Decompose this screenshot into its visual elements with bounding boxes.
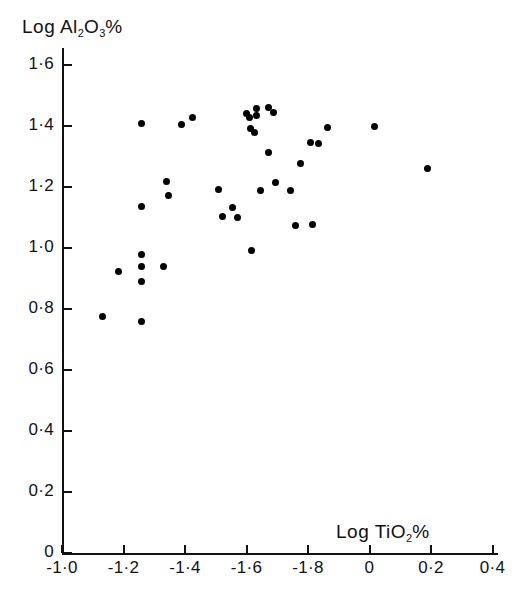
- data-point: [138, 278, 145, 285]
- data-point: [246, 114, 253, 121]
- plot-area: [0, 0, 531, 601]
- data-point: [115, 268, 122, 275]
- data-point: [219, 213, 226, 220]
- data-point: [309, 221, 316, 228]
- data-point: [287, 187, 294, 194]
- data-point: [229, 204, 236, 211]
- data-point: [138, 251, 145, 258]
- data-point: [297, 160, 304, 167]
- data-point: [307, 139, 314, 146]
- data-point: [253, 105, 260, 112]
- data-point: [138, 203, 145, 210]
- data-point: [424, 165, 431, 172]
- data-point: [138, 318, 145, 325]
- data-point: [371, 123, 378, 130]
- data-point: [234, 214, 241, 221]
- data-point: [292, 222, 299, 229]
- data-point: [160, 263, 167, 270]
- data-point: [324, 124, 331, 131]
- scatter-plot-figure: Log Al2O3% Log TiO2% 00·20·40·60·81·01·2…: [0, 0, 531, 601]
- data-point: [253, 112, 260, 119]
- data-point: [138, 120, 145, 127]
- data-point: [251, 129, 258, 136]
- data-point: [178, 121, 185, 128]
- data-point: [270, 109, 277, 116]
- data-point: [99, 313, 106, 320]
- data-point: [257, 187, 264, 194]
- data-point: [272, 179, 279, 186]
- data-point: [248, 247, 255, 254]
- data-point: [189, 114, 196, 121]
- data-point: [163, 178, 170, 185]
- data-point: [265, 149, 272, 156]
- data-point: [165, 192, 172, 199]
- data-point: [315, 140, 322, 147]
- data-point: [215, 186, 222, 193]
- data-point: [138, 263, 145, 270]
